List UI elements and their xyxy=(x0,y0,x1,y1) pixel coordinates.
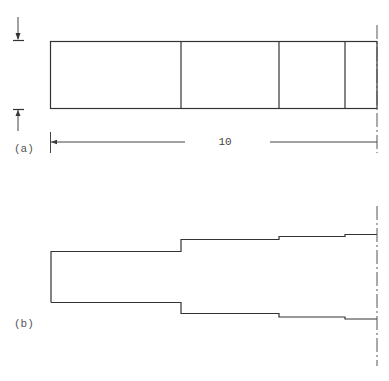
dimension-value: 10 xyxy=(218,136,231,148)
stepped-profile-top xyxy=(51,235,377,303)
top-arrow-icon xyxy=(13,17,24,41)
part-a: 10 (a) xyxy=(13,17,377,155)
part-a-label: (a) xyxy=(14,143,34,155)
part-b: (b) xyxy=(14,206,377,366)
part-b-label: (b) xyxy=(14,318,34,330)
bottom-arrow-icon xyxy=(13,110,24,132)
bar-outline xyxy=(51,42,378,109)
stepped-profile-bottom xyxy=(51,303,377,320)
dimension-line xyxy=(51,132,378,153)
diagram-canvas: 10 (a) (b) xyxy=(0,0,389,381)
